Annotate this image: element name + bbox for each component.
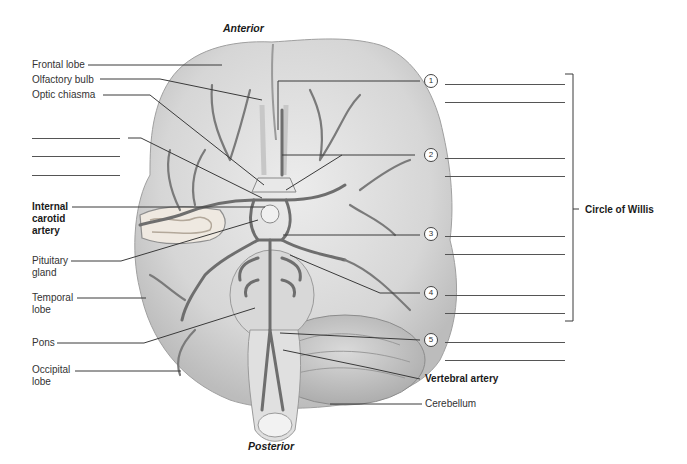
number-5-marker: 5 (424, 333, 438, 347)
answer-blank-4a[interactable] (445, 295, 565, 296)
answer-blank-2b[interactable] (445, 176, 565, 177)
pons-label: Pons (32, 337, 55, 349)
number-2-marker: 2 (424, 148, 438, 162)
answer-blank-left-2[interactable] (32, 156, 120, 157)
optic-chiasma-label: Optic chiasma (32, 89, 95, 101)
number-1-marker: 1 (424, 74, 438, 88)
answer-blank-5b[interactable] (445, 360, 565, 361)
temporal-lobe-label-line1: Temporal (32, 292, 73, 304)
leader-lines (0, 0, 687, 464)
answer-blank-left-3[interactable] (32, 175, 120, 176)
answer-blank-3a[interactable] (445, 236, 565, 237)
occipital-lobe-label-line1: Occipital (32, 364, 70, 376)
number-3-marker: 3 (424, 227, 438, 241)
answer-blank-1b[interactable] (445, 102, 565, 103)
internal-carotid-artery-label-line1: Internal (32, 201, 68, 213)
cerebellum-label: Cerebellum (425, 398, 476, 410)
number-4-marker: 4 (424, 286, 438, 300)
pituitary-gland-label-line1: Pituitary (32, 255, 68, 267)
answer-blank-left-1[interactable] (32, 138, 120, 139)
temporal-lobe-label-line2: lobe (32, 304, 51, 316)
vertebral-artery-label: Vertebral artery (425, 373, 498, 385)
answer-blank-2a[interactable] (445, 158, 565, 159)
answer-blank-3b[interactable] (445, 254, 565, 255)
pituitary-gland-label-line2: gland (32, 267, 56, 279)
internal-carotid-artery-label-line2: carotid (32, 213, 65, 225)
occipital-lobe-label-line2: lobe (32, 376, 51, 388)
answer-blank-1a[interactable] (445, 84, 565, 85)
internal-carotid-artery-label-line3: artery (32, 225, 60, 237)
answer-blank-4b[interactable] (445, 313, 565, 314)
olfactory-bulb-label: Olfactory bulb (32, 74, 94, 86)
frontal-lobe-label: Frontal lobe (32, 59, 85, 71)
circle-of-willis-label: Circle of Willis (585, 204, 654, 216)
answer-blank-5a[interactable] (445, 342, 565, 343)
